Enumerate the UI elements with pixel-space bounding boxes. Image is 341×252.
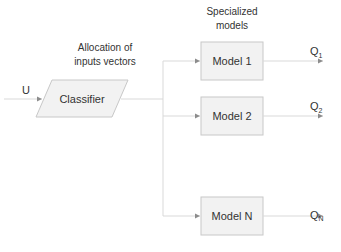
classifier-label: Classifier [59,93,105,105]
output-label-q1: Q1 [310,45,323,59]
specialized-note-line2: models [216,20,248,31]
output-label-qn: QN [310,209,324,222]
model-1-label: Model 1 [212,55,251,67]
specialized-note-line1: Specialized [206,6,257,17]
input-label-u: U [22,84,30,96]
model-n-node[interactable]: Model N [201,197,263,235]
flow-diagram: U Classifier Allocation of inputs vector… [0,0,341,252]
allocation-note-line2: inputs vectors [74,56,136,67]
classifier-node[interactable]: Classifier [36,80,128,117]
model-2-node[interactable]: Model 2 [201,97,263,135]
model-1-node[interactable]: Model 1 [201,42,263,80]
model-2-label: Model 2 [212,110,251,122]
output-label-q2: Q2 [310,100,323,114]
allocation-note-line1: Allocation of [78,42,133,53]
model-n-label: Model N [212,210,253,222]
